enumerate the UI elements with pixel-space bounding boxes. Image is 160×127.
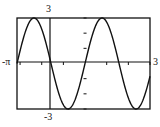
- y-max-label: 3: [46, 4, 51, 14]
- x-min-label: -π: [2, 57, 10, 67]
- graph-window: [0, 0, 160, 127]
- y-min-label: -3: [44, 112, 52, 122]
- function-curve: [17, 18, 150, 109]
- x-max-label: 3: [153, 57, 158, 67]
- viewing-window-frame: [17, 18, 150, 109]
